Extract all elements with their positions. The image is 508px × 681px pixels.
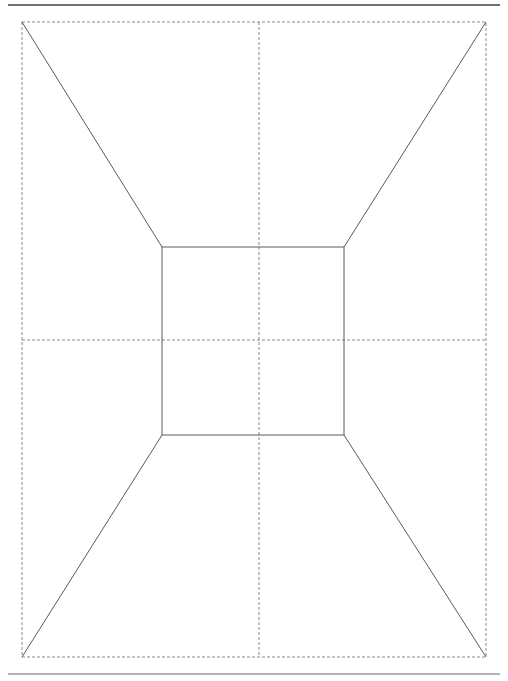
orthogonal-top-right (344, 22, 486, 247)
orthogonal-top-left (22, 22, 162, 247)
orthogonal-bottom-left (22, 435, 162, 657)
perspective-diagram-svg (0, 0, 508, 681)
inner-solid-square (162, 247, 344, 435)
orthogonal-bottom-right (344, 435, 486, 657)
perspective-figure (0, 0, 508, 681)
